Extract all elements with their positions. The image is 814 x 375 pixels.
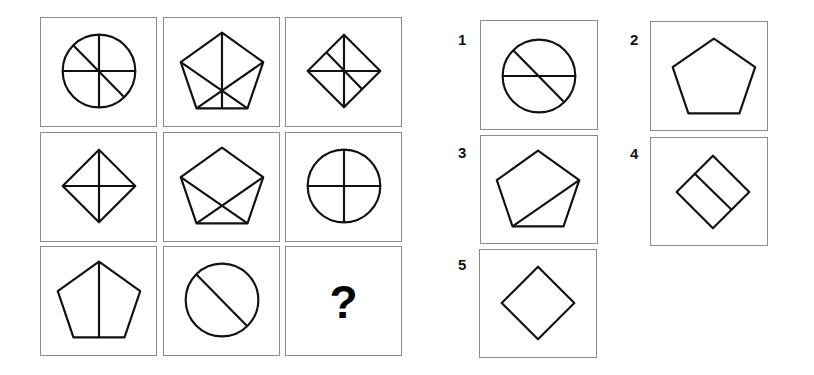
option-2[interactable]: [650, 21, 768, 131]
option-3[interactable]: [480, 135, 598, 244]
circle-cross-figure: [286, 133, 401, 241]
diamond-diagonal-figure: [651, 138, 767, 245]
pentagon-diagonal-figure: [481, 136, 597, 243]
matrix-cell-r2c2: [163, 132, 280, 242]
option-label-2: 2: [630, 31, 638, 48]
option-label-5: 5: [458, 256, 466, 273]
diamond-three-lines-figure: [286, 18, 401, 126]
matrix-cell-r1c1: [40, 17, 157, 127]
option-label-4: 4: [630, 145, 638, 162]
matrix-cell-r3c1: [40, 246, 157, 356]
option-5[interactable]: [479, 249, 597, 358]
matrix-cell-missing: ?: [285, 246, 402, 356]
circle-horizontal-diagonal-figure: [481, 21, 597, 129]
pentagon-three-lines-figure: [164, 18, 279, 126]
option-label-1: 1: [458, 31, 466, 48]
matrix-cell-r1c2: [163, 17, 280, 127]
diamond-plain-figure: [480, 250, 596, 357]
circle-diagonal-figure: [164, 247, 279, 355]
pentagon-x-figure: [164, 133, 279, 241]
matrix-cell-r3c2: [163, 246, 280, 356]
circle-quartered-diagonal-figure: [41, 18, 156, 126]
option-4[interactable]: [650, 137, 768, 246]
pentagon-vertical-figure: [41, 247, 156, 355]
matrix-cell-r2c3: [285, 132, 402, 242]
question-mark: ?: [286, 275, 401, 329]
matrix-cell-r1c3: [285, 17, 402, 127]
pentagon-plain-figure: [651, 22, 767, 130]
matrix-cell-r2c1: [40, 132, 157, 242]
diamond-cross-figure: [41, 133, 156, 241]
option-1[interactable]: [480, 20, 598, 130]
option-label-3: 3: [458, 144, 466, 161]
